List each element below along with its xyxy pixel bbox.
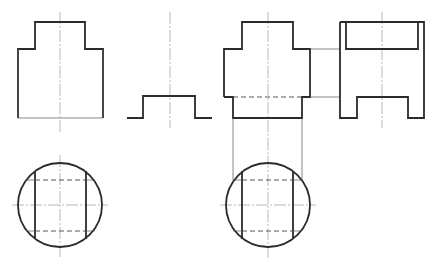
left-profile-view xyxy=(127,12,212,128)
right-side-view xyxy=(340,12,424,128)
left-front-view xyxy=(18,12,103,132)
left-top-view xyxy=(12,155,108,258)
drawing-canvas: Orthographic projection exercise xyxy=(0,0,433,268)
bump-profile xyxy=(127,96,212,118)
front-outline-upper xyxy=(18,22,103,118)
front-outline xyxy=(224,22,310,118)
